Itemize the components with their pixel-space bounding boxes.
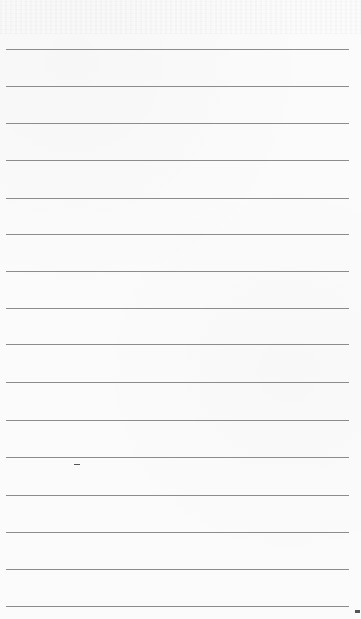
ruled-line <box>6 344 349 345</box>
ruled-line <box>6 457 349 458</box>
ruled-line <box>6 234 349 235</box>
lined-paper-page <box>0 0 361 619</box>
ruled-line <box>6 569 349 570</box>
ruled-line <box>6 271 349 272</box>
ruled-line <box>6 532 349 533</box>
ruled-line <box>6 86 349 87</box>
ruled-line <box>6 123 349 124</box>
ruled-line <box>6 420 349 421</box>
ruled-line <box>6 160 349 161</box>
ruled-line <box>6 198 349 199</box>
ruled-line <box>6 382 349 383</box>
ruled-line <box>6 495 349 496</box>
ruled-line <box>6 49 349 50</box>
bleed-through-text-area <box>0 0 361 34</box>
corner-mark <box>355 610 360 613</box>
ruled-line <box>6 308 349 309</box>
stray-dash <box>74 464 80 465</box>
ruled-line <box>6 606 349 607</box>
